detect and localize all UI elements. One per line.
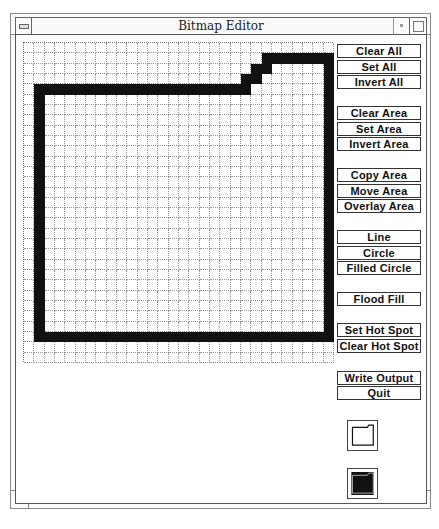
bitmap-cell[interactable]: [200, 260, 210, 270]
bitmap-cell[interactable]: [76, 291, 86, 301]
bitmap-cell[interactable]: [117, 249, 127, 259]
bitmap-cell[interactable]: [148, 311, 158, 321]
bitmap-cell[interactable]: [107, 167, 117, 177]
bitmap-cell[interactable]: [324, 198, 334, 208]
bitmap-cell[interactable]: [65, 229, 75, 239]
bitmap-cell[interactable]: [45, 311, 55, 321]
bitmap-cell[interactable]: [210, 115, 220, 125]
bitmap-cell[interactable]: [282, 115, 292, 125]
bitmap-cell[interactable]: [169, 239, 179, 249]
bitmap-cell[interactable]: [34, 167, 44, 177]
bitmap-cell[interactable]: [210, 239, 220, 249]
bitmap-cell[interactable]: [303, 64, 313, 74]
bitmap-cell[interactable]: [189, 249, 199, 259]
bitmap-cell[interactable]: [293, 332, 303, 342]
bitmap-cell[interactable]: [324, 332, 334, 342]
bitmap-cell[interactable]: [200, 229, 210, 239]
bitmap-cell[interactable]: [272, 280, 282, 290]
bitmap-cell[interactable]: [324, 105, 334, 115]
bitmap-cell[interactable]: [251, 342, 261, 352]
bitmap-cell[interactable]: [272, 291, 282, 301]
bitmap-cell[interactable]: [55, 177, 65, 187]
bitmap-cell[interactable]: [231, 177, 241, 187]
bitmap-cell[interactable]: [282, 322, 292, 332]
bitmap-cell[interactable]: [303, 105, 313, 115]
bitmap-cell[interactable]: [45, 188, 55, 198]
bitmap-cell[interactable]: [169, 342, 179, 352]
bitmap-cell[interactable]: [303, 301, 313, 311]
bitmap-cell[interactable]: [148, 84, 158, 94]
bitmap-cell[interactable]: [158, 342, 168, 352]
bitmap-cell[interactable]: [210, 342, 220, 352]
bitmap-cell[interactable]: [34, 280, 44, 290]
bitmap-cell[interactable]: [96, 157, 106, 167]
bitmap-cell[interactable]: [220, 342, 230, 352]
bitmap-cell[interactable]: [251, 84, 261, 94]
bitmap-cell[interactable]: [24, 322, 34, 332]
bitmap-cell[interactable]: [34, 64, 44, 74]
bitmap-cell[interactable]: [251, 177, 261, 187]
bitmap-cell[interactable]: [303, 167, 313, 177]
bitmap-cell[interactable]: [282, 198, 292, 208]
bitmap-cell[interactable]: [200, 157, 210, 167]
bitmap-cell[interactable]: [86, 301, 96, 311]
bitmap-cell[interactable]: [262, 157, 272, 167]
bitmap-cell[interactable]: [293, 229, 303, 239]
bitmap-cell[interactable]: [272, 146, 282, 156]
bitmap-cell[interactable]: [34, 126, 44, 136]
bitmap-cell[interactable]: [189, 136, 199, 146]
bitmap-cell[interactable]: [55, 260, 65, 270]
bitmap-cell[interactable]: [107, 177, 117, 187]
bitmap-cell[interactable]: [282, 188, 292, 198]
bitmap-cell[interactable]: [231, 115, 241, 125]
bitmap-cell[interactable]: [324, 157, 334, 167]
bitmap-cell[interactable]: [86, 229, 96, 239]
bitmap-cell[interactable]: [169, 291, 179, 301]
bitmap-cell[interactable]: [262, 177, 272, 187]
bitmap-cell[interactable]: [138, 167, 148, 177]
bitmap-cell[interactable]: [251, 115, 261, 125]
bitmap-cell[interactable]: [158, 198, 168, 208]
bitmap-cell[interactable]: [127, 280, 137, 290]
bitmap-cell[interactable]: [169, 115, 179, 125]
bitmap-cell[interactable]: [45, 218, 55, 228]
bitmap-cell[interactable]: [251, 218, 261, 228]
bitmap-cell[interactable]: [313, 74, 323, 84]
bitmap-cell[interactable]: [55, 270, 65, 280]
bitmap-cell[interactable]: [303, 157, 313, 167]
bitmap-cell[interactable]: [107, 157, 117, 167]
bitmap-cell[interactable]: [169, 218, 179, 228]
bitmap-cell[interactable]: [45, 291, 55, 301]
bitmap-cell[interactable]: [45, 64, 55, 74]
bitmap-cell[interactable]: [138, 208, 148, 218]
bitmap-cell[interactable]: [189, 157, 199, 167]
bitmap-cell[interactable]: [96, 332, 106, 342]
bitmap-cell[interactable]: [303, 208, 313, 218]
bitmap-cell[interactable]: [313, 115, 323, 125]
bitmap-cell[interactable]: [45, 229, 55, 239]
bitmap-cell[interactable]: [324, 249, 334, 259]
bitmap-cell[interactable]: [313, 342, 323, 352]
bitmap-cell[interactable]: [231, 249, 241, 259]
bitmap-cell[interactable]: [86, 177, 96, 187]
bitmap-cell[interactable]: [272, 198, 282, 208]
bitmap-cell[interactable]: [34, 342, 44, 352]
bitmap-cell[interactable]: [210, 311, 220, 321]
bitmap-cell[interactable]: [262, 43, 272, 53]
bitmap-cell[interactable]: [158, 332, 168, 342]
bitmap-cell[interactable]: [24, 74, 34, 84]
bitmap-cell[interactable]: [65, 126, 75, 136]
bitmap-cell[interactable]: [251, 208, 261, 218]
bitmap-cell[interactable]: [148, 218, 158, 228]
bitmap-cell[interactable]: [179, 280, 189, 290]
bitmap-cell[interactable]: [210, 249, 220, 259]
bitmap-cell[interactable]: [96, 105, 106, 115]
bitmap-cell[interactable]: [313, 280, 323, 290]
bitmap-cell[interactable]: [34, 157, 44, 167]
bitmap-cell[interactable]: [272, 74, 282, 84]
bitmap-cell[interactable]: [324, 177, 334, 187]
bitmap-cell[interactable]: [210, 84, 220, 94]
bitmap-cell[interactable]: [282, 280, 292, 290]
bitmap-cell[interactable]: [272, 53, 282, 63]
bitmap-cell[interactable]: [45, 74, 55, 84]
